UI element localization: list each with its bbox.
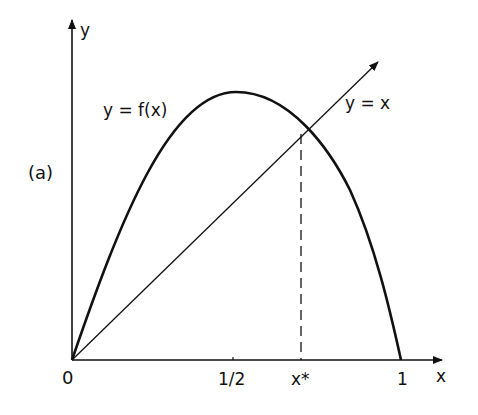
tick-label-one: 1 bbox=[397, 371, 408, 388]
tick-label-half: 1/2 bbox=[218, 371, 245, 388]
cobweb-diagram bbox=[0, 0, 478, 415]
x-axis-label: x bbox=[436, 368, 446, 385]
y-axis-label: y bbox=[80, 22, 90, 39]
map-curve-label: y = f(x) bbox=[103, 102, 167, 119]
identity-line-label: y = x bbox=[345, 95, 390, 112]
panel-label: (a) bbox=[28, 164, 53, 182]
origin-label: 0 bbox=[62, 369, 73, 387]
map-curve bbox=[72, 92, 401, 360]
tick-label-fixed-point: x* bbox=[291, 371, 310, 388]
